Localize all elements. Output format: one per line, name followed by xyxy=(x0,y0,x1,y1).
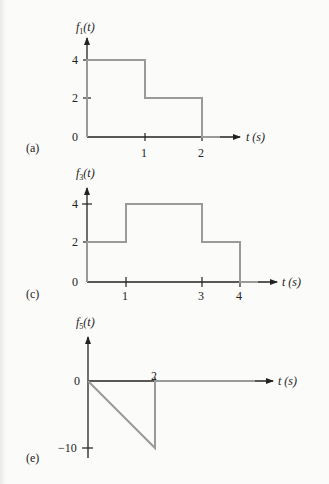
chart-a-ytick-label-4: 4 xyxy=(72,53,78,67)
chart-a-xtick-label-1: 1 xyxy=(141,146,147,160)
chart-c-signal xyxy=(87,204,258,282)
chart-e-xtick-label-2: 2 xyxy=(151,369,157,383)
chart-a-xlabel: t (s) xyxy=(246,130,265,144)
chart-e: f5(t) 0 −10 2 t (s) (e) xyxy=(26,315,297,465)
chart-c: f3(t) 4 2 0 1 3 4 t (s) (c) xyxy=(26,166,301,303)
chart-a-signal xyxy=(87,60,220,137)
chart-c-ytick-label-2: 2 xyxy=(72,235,78,249)
chart-e-ytick-label-0: 0 xyxy=(74,374,80,388)
chart-a-ytick-label-0: 0 xyxy=(72,130,78,144)
chart-e-signal xyxy=(88,381,255,448)
chart-a-ytick-label-2: 2 xyxy=(72,91,78,105)
chart-c-ytick-label-4: 4 xyxy=(72,197,78,211)
chart-c-xlabel: t (s) xyxy=(282,275,301,289)
chart-e-ylabel: f5(t) xyxy=(76,315,95,331)
chart-e-ytick-label-m10: −10 xyxy=(58,441,77,455)
chart-c-xtick-label-3: 3 xyxy=(198,289,204,303)
chart-c-ytick-label-0: 0 xyxy=(72,275,78,289)
chart-c-ylabel: f3(t) xyxy=(76,166,95,182)
chart-e-panel-label: (e) xyxy=(26,451,39,465)
chart-e-xlabel: t (s) xyxy=(278,374,297,388)
chart-a-panel-label: (a) xyxy=(26,141,39,155)
chart-c-xtick-label-4: 4 xyxy=(236,289,242,303)
figure: f1(t) 4 2 0 1 2 t (s) (a) f3(t) 4 2 0 1 … xyxy=(0,0,329,484)
chart-a-xtick-label-2: 2 xyxy=(198,146,204,160)
chart-a-ylabel: f1(t) xyxy=(76,20,95,36)
chart-c-panel-label: (c) xyxy=(26,287,39,301)
chart-a: f1(t) 4 2 0 1 2 t (s) (a) xyxy=(26,20,265,160)
chart-c-xtick-label-1: 1 xyxy=(122,289,128,303)
